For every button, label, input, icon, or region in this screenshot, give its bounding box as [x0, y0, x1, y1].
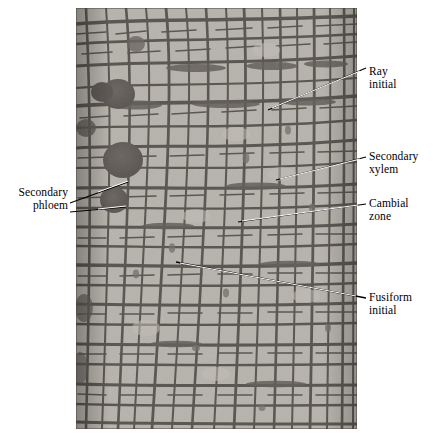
label-secondary-phloem: Secondary phloem: [0, 186, 68, 211]
label-secondary-xylem: Secondary xylem: [369, 150, 433, 175]
micrograph-image: [76, 8, 357, 429]
label-cambial-zone: Cambial zone: [369, 197, 433, 222]
micrograph-cell-texture: [76, 8, 357, 429]
label-ray-initial: Ray initial: [369, 65, 433, 90]
figure-panel: Secondary phloem Ray initial Secondary x…: [0, 0, 433, 442]
label-fusiform-initial: Fusiform initial: [369, 291, 433, 316]
